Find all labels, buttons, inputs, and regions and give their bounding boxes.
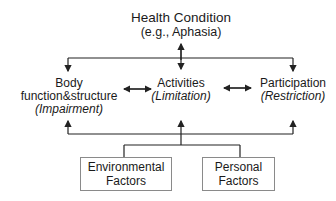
- body-function-node: Body function&structure (Impairment): [14, 77, 124, 116]
- environmental-label: Environmental: [88, 160, 165, 174]
- factors-label: Factors: [106, 174, 146, 188]
- impairment-label: (Impairment): [14, 103, 124, 116]
- health-condition-example: (e.g., Aphasia): [131, 25, 231, 40]
- participation-node: Participation (Restriction): [253, 77, 333, 103]
- personal-label: Personal: [215, 160, 262, 174]
- restriction-label: (Restriction): [253, 90, 333, 103]
- factors-label: Factors: [218, 174, 258, 188]
- environmental-factors-box: Environmental Factors: [80, 157, 172, 191]
- activities-node: Activities (Limitation): [146, 77, 216, 103]
- limitation-label: (Limitation): [146, 90, 216, 103]
- health-condition-title: Health Condition: [131, 10, 231, 25]
- personal-factors-box: Personal Factors: [202, 157, 275, 191]
- health-condition-node: Health Condition (e.g., Aphasia): [131, 10, 231, 40]
